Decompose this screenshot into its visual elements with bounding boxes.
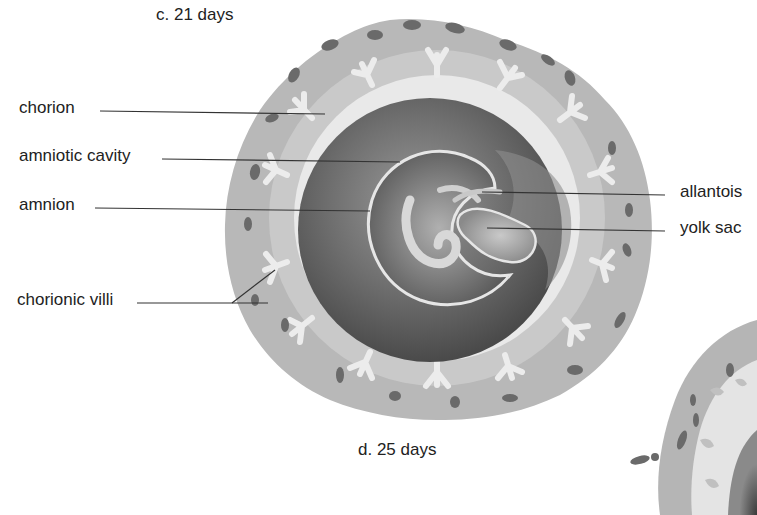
panel-d-caption: d. 25 days <box>358 440 436 460</box>
label-yolk-sac: yolk sac <box>680 218 741 238</box>
label-allantois: allantois <box>680 182 742 202</box>
label-amniotic-cavity: amniotic cavity <box>19 146 130 166</box>
label-chorionic-villi: chorionic villi <box>17 290 113 310</box>
embryo-diagram: c. 21 days d. 25 days chorion amniotic c… <box>0 0 757 515</box>
label-chorion: chorion <box>19 98 75 118</box>
diagram-artwork <box>0 0 757 515</box>
panel-c-caption: c. 21 days <box>156 5 234 25</box>
panel-d-illustration <box>629 320 757 515</box>
label-amnion: amnion <box>19 195 75 215</box>
panel-c-illustration <box>225 19 652 420</box>
